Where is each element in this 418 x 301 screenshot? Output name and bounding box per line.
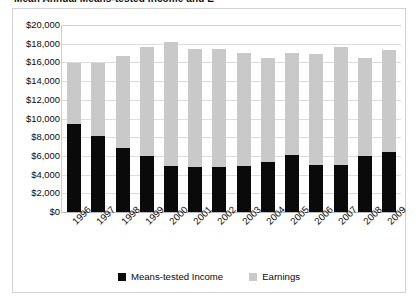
bar-stack xyxy=(334,25,348,212)
bar-column[interactable] xyxy=(86,25,110,212)
bar-stack xyxy=(212,25,226,212)
y-axis-tick-label: $0 xyxy=(16,207,60,216)
legend-item[interactable]: Earnings xyxy=(249,271,300,282)
legend-label: Earnings xyxy=(262,271,300,282)
bar-segment-earnings[interactable] xyxy=(116,56,130,148)
bar-stack xyxy=(285,25,299,212)
bar-segment-earnings[interactable] xyxy=(237,53,251,166)
y-axis-tick-label: $20,000 xyxy=(16,20,60,29)
bar-series-group xyxy=(62,25,401,212)
bar-stack xyxy=(309,25,323,212)
bar-segment-earnings[interactable] xyxy=(91,63,105,136)
legend-label: Means-tested Income xyxy=(131,271,223,282)
chart-legend: Means-tested IncomeEarnings xyxy=(0,271,418,282)
bar-stack xyxy=(261,25,275,212)
bar-segment-means-tested-income[interactable] xyxy=(164,166,178,212)
bar-segment-means-tested-income[interactable] xyxy=(382,152,396,212)
bar-segment-means-tested-income[interactable] xyxy=(212,167,226,212)
bar-segment-means-tested-income[interactable] xyxy=(67,124,81,212)
bar-segment-means-tested-income[interactable] xyxy=(188,167,202,212)
bar-column[interactable] xyxy=(256,25,280,212)
y-axis-tick-label: $2,000 xyxy=(16,189,60,198)
bar-stack xyxy=(140,25,154,212)
bar-segment-means-tested-income[interactable] xyxy=(309,165,323,212)
bar-column[interactable] xyxy=(110,25,134,212)
y-axis-tick-label: $8,000 xyxy=(16,132,60,141)
bar-stack xyxy=(237,25,251,212)
bar-stack xyxy=(358,25,372,212)
bar-segment-earnings[interactable] xyxy=(67,63,81,124)
bar-stack xyxy=(382,25,396,212)
y-axis-tick-label: $10,000 xyxy=(16,114,60,123)
bar-column[interactable] xyxy=(232,25,256,212)
bar-segment-means-tested-income[interactable] xyxy=(261,162,275,212)
bar-column[interactable] xyxy=(159,25,183,212)
y-axis: $20,000$18,000$16,000$14,000$12,000$10,0… xyxy=(16,19,60,219)
y-axis-tick-label: $6,000 xyxy=(16,151,60,160)
bar-column[interactable] xyxy=(377,25,401,212)
legend-item[interactable]: Means-tested Income xyxy=(118,271,223,282)
bar-column[interactable] xyxy=(183,25,207,212)
legend-swatch-icon xyxy=(249,273,257,281)
bar-segment-earnings[interactable] xyxy=(382,50,396,152)
bar-segment-means-tested-income[interactable] xyxy=(237,166,251,212)
bar-segment-means-tested-income[interactable] xyxy=(358,156,372,212)
chart-container: Mean Annual Means-tested Income and Earn… xyxy=(0,0,418,301)
bar-segment-means-tested-income[interactable] xyxy=(140,156,154,212)
chart-title-cropped: Mean Annual Means-tested Income and Earn… xyxy=(14,0,214,3)
bar-column[interactable] xyxy=(207,25,231,212)
bar-segment-earnings[interactable] xyxy=(309,54,323,165)
bar-stack xyxy=(188,25,202,212)
y-axis-tick-label: $4,000 xyxy=(16,170,60,179)
bar-segment-earnings[interactable] xyxy=(285,53,299,155)
bar-segment-earnings[interactable] xyxy=(188,49,202,167)
y-axis-tick-label: $16,000 xyxy=(16,58,60,67)
bar-column[interactable] xyxy=(304,25,328,212)
plot-area xyxy=(61,25,401,213)
y-axis-tick-label: $18,000 xyxy=(16,39,60,48)
y-axis-tick-label: $12,000 xyxy=(16,95,60,104)
bar-segment-means-tested-income[interactable] xyxy=(285,155,299,212)
bar-segment-earnings[interactable] xyxy=(334,47,348,165)
legend-swatch-icon xyxy=(118,273,126,281)
bar-segment-earnings[interactable] xyxy=(140,47,154,155)
bar-segment-earnings[interactable] xyxy=(212,49,226,167)
bar-stack xyxy=(91,25,105,212)
bar-stack xyxy=(67,25,81,212)
bar-segment-earnings[interactable] xyxy=(164,42,178,166)
bar-segment-earnings[interactable] xyxy=(358,58,372,156)
bar-segment-means-tested-income[interactable] xyxy=(91,136,105,212)
bar-segment-means-tested-income[interactable] xyxy=(334,165,348,212)
bar-segment-earnings[interactable] xyxy=(261,58,275,163)
bar-stack xyxy=(164,25,178,212)
bar-column[interactable] xyxy=(353,25,377,212)
bar-column[interactable] xyxy=(62,25,86,212)
x-axis: 1996199719981999200020012002200320042005… xyxy=(61,213,400,261)
bar-column[interactable] xyxy=(135,25,159,212)
bar-segment-means-tested-income[interactable] xyxy=(116,148,130,213)
y-axis-tick-label: $14,000 xyxy=(16,76,60,85)
bar-column[interactable] xyxy=(328,25,352,212)
bar-stack xyxy=(116,25,130,212)
bar-column[interactable] xyxy=(280,25,304,212)
